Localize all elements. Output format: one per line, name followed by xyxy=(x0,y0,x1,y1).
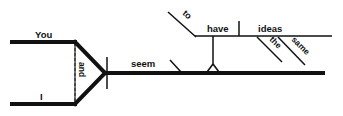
subject-you-label: You xyxy=(35,29,52,40)
infinitive-pedestal xyxy=(207,36,219,72)
modifier-the-label: the xyxy=(268,34,284,50)
complement-slant xyxy=(170,60,181,72)
converge-bottom xyxy=(75,73,105,104)
sentence-diagram: You I and seem to have ideas the same xyxy=(0,0,343,116)
compound-subject xyxy=(12,42,105,104)
infinitive-marker-label: to xyxy=(181,8,194,21)
pedestal-foot-left xyxy=(207,64,213,72)
conjunction-label: and xyxy=(77,62,87,77)
object-label: ideas xyxy=(258,23,282,34)
verb-label: seem xyxy=(131,58,155,69)
pedestal-foot-right xyxy=(213,64,219,72)
subject-i-label: I xyxy=(40,91,43,102)
infinitive-verb-label: have xyxy=(207,23,229,34)
diagram-canvas: You I and seem to have ideas the same xyxy=(0,0,343,116)
